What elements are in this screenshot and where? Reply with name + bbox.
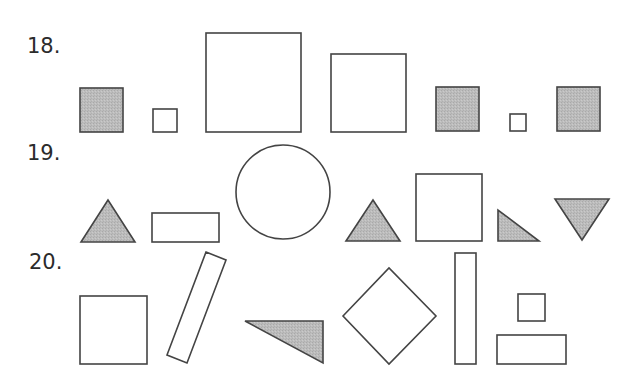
- row18-gray-square-2: [436, 87, 479, 131]
- row20-diamond: [343, 268, 436, 364]
- row18-gray-square-1: [80, 88, 123, 132]
- row20-gray-right-triangle: [245, 321, 323, 363]
- shapes-canvas: [0, 0, 634, 387]
- row19-rectangle: [152, 213, 219, 242]
- row19-gray-triangle-1: [81, 200, 135, 242]
- row20-small-square: [518, 294, 545, 321]
- row19-gray-triangle-2: [346, 200, 400, 241]
- row-20-shapes: [80, 252, 566, 364]
- row18-gray-square-3: [557, 87, 600, 131]
- row20-square: [80, 296, 147, 364]
- row18-large-square: [206, 33, 301, 132]
- row19-gray-right-triangle: [498, 210, 539, 241]
- row18-medium-square: [331, 54, 406, 132]
- row20-tilted-rectangle: [167, 252, 226, 363]
- row18-small-square: [153, 109, 177, 132]
- row-19-shapes: [81, 145, 609, 242]
- row19-circle: [236, 145, 330, 239]
- row20-tall-rectangle: [455, 253, 476, 364]
- row20-rectangle: [497, 335, 566, 364]
- row18-tiny-square: [510, 114, 526, 131]
- row-18-shapes: [80, 33, 600, 132]
- row19-gray-inverted-triangle: [555, 199, 609, 240]
- row19-square: [416, 174, 482, 241]
